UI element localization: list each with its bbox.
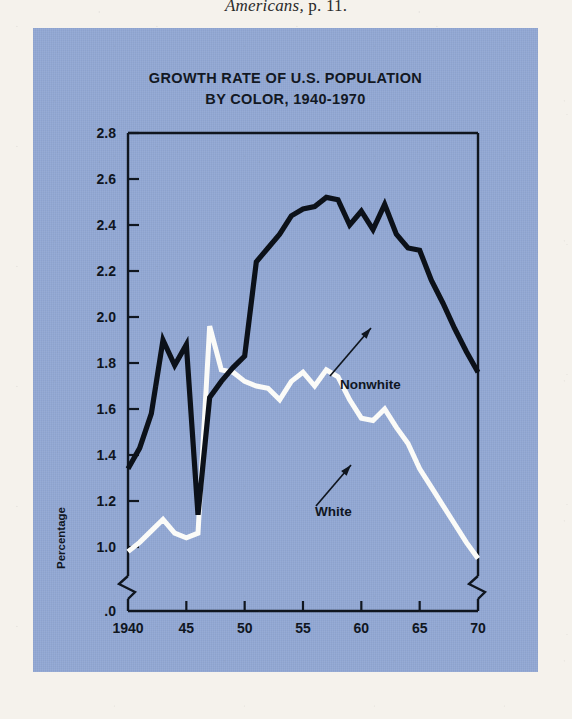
caption-rest-text: p. 11. [304, 0, 347, 15]
caption-italic-text: Americans, [225, 0, 304, 15]
chart-plot: 2.82.62.42.22.01.81.61.41.21.0.0 1940455… [33, 28, 538, 672]
y-tick-label: 1.0 [97, 539, 117, 555]
x-tick-label: 50 [237, 620, 253, 636]
series-label-nonwhite: Nonwhite [340, 377, 401, 392]
series-label-white: White [315, 504, 352, 519]
x-tick-label: 60 [354, 620, 370, 636]
x-tick-label: 65 [412, 620, 428, 636]
y-tick-label: 1.4 [97, 447, 117, 463]
y-tick-label: .0 [104, 603, 116, 619]
y-tick-label: 1.6 [97, 401, 117, 417]
y-tick-label: 1.8 [97, 355, 117, 371]
series-line-white [128, 326, 478, 558]
y-tick-label: 2.4 [97, 217, 117, 233]
y-tick-label: 2.6 [97, 171, 117, 187]
y-axis-title: Percentage [55, 507, 67, 569]
annotations-group: NonwhiteWhite [315, 328, 401, 519]
right-axis-break-zigzag [469, 576, 485, 599]
x-tick-labels: 1940455055606570 [112, 620, 486, 636]
tick-marks-group [128, 133, 420, 611]
x-tick-label: 55 [295, 620, 311, 636]
x-tick-label: 70 [470, 620, 486, 636]
y-tick-labels: 2.82.62.42.22.01.81.61.41.21.0.0 [97, 125, 117, 619]
y-axis-break-zigzag [119, 576, 135, 599]
figure-panel: GROWTH RATE OF U.S. POPULATION BY COLOR,… [33, 28, 538, 672]
series-line-nonwhite [128, 197, 478, 514]
y-tick-label: 2.0 [97, 309, 117, 325]
data-series-group [128, 197, 478, 558]
y-tick-label: 2.2 [97, 263, 117, 279]
page-background: Americans, p. 11. GROWTH RATE OF U.S. PO… [0, 0, 572, 719]
y-tick-label: 1.2 [97, 493, 117, 509]
y-tick-label: 2.8 [97, 125, 117, 141]
x-tick-label: 45 [179, 620, 195, 636]
x-tick-label: 1940 [112, 620, 143, 636]
page-caption: Americans, p. 11. [0, 0, 572, 16]
